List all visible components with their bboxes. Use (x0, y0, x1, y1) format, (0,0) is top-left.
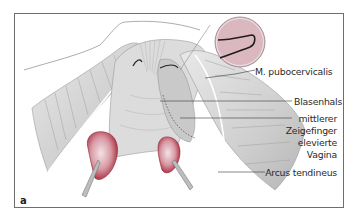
label-mittlerer: mittlerer (298, 113, 337, 124)
right-bulb-retractor (158, 137, 193, 190)
label-m-pubocervicalis: M. pubocervicalis (255, 66, 332, 77)
left-bulb-retractor (82, 132, 118, 197)
label-zeigefinger: Zeigefinger (286, 125, 337, 136)
label-vagina: Vagina (307, 149, 337, 160)
anatomical-illustration (0, 0, 356, 219)
label-arcus-tendineus: Arcus tendineus (265, 167, 337, 178)
label-elevierte: elevierte (298, 137, 337, 148)
panel-letter: a (20, 195, 27, 206)
label-blasenhals: Blasenhals (294, 96, 342, 107)
